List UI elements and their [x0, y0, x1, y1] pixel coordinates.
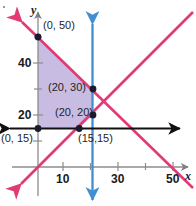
- point-label-20-20: (20, 20): [55, 107, 93, 118]
- point-label-0-50: (0, 50): [43, 20, 75, 31]
- y-tick-label-20: 20: [18, 109, 31, 121]
- y-tick-label-40: 40: [18, 57, 31, 69]
- point-marker-20-30: [90, 86, 97, 93]
- y-axis-label: y: [31, 4, 36, 16]
- graph-figure: y x 10 30 50 20 40 (0, 50) (20, 30) (20,…: [0, 0, 196, 206]
- x-tick-label-50: 50: [166, 173, 179, 185]
- point-marker-15-15: [76, 125, 83, 132]
- point-label-0-15: (0, 15): [1, 133, 33, 144]
- point-label-20-30: (20, 30): [48, 82, 86, 93]
- x-tick-label-10: 10: [56, 173, 69, 185]
- x-tick-label-30: 30: [111, 173, 124, 185]
- x-axis-label: x: [185, 170, 191, 182]
- point-marker-0-50: [35, 34, 42, 41]
- point-marker-0-15: [35, 125, 42, 132]
- point-label-15-15: (15,15): [78, 133, 113, 144]
